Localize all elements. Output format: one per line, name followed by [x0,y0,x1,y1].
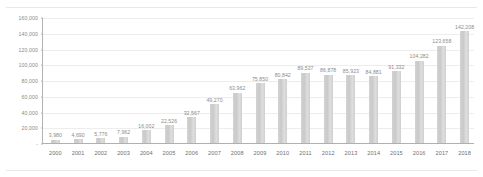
x-axis-labels: 2000200120022003200420052006200720082009… [42,150,474,162]
bar-value-label: 63,962 [229,85,245,91]
x-axis-tick-label: 2010 [276,150,289,156]
bar-rect[interactable] [256,83,265,143]
bar-rect[interactable] [460,31,469,143]
bar-value-label: 123,658 [432,38,451,44]
x-axis-tick-label: 2000 [49,150,62,156]
bar-value-label: 84,881 [366,69,382,75]
y-axis-tick-label: 100,000 [19,62,38,68]
bar-value-label: 75,850 [252,76,268,82]
bar-value-label: 85,923 [343,68,359,74]
x-axis-tick-label: 2012 [322,150,335,156]
x-axis-tick-label: 2009 [254,150,267,156]
bar-rect[interactable] [346,75,355,143]
y-axis-tick-label: - [36,141,38,147]
y-axis-labels: -20,00040,00060,00080,000100,000120,0001… [0,18,38,144]
bar-item[interactable]: 142,208 [451,24,479,143]
bar-rect[interactable] [51,140,60,143]
bar-value-label: 80,842 [275,72,291,78]
bar-rect[interactable] [278,79,287,143]
x-axis-tick-label: 2014 [367,150,380,156]
bar-series: 3,9804,6905,7767,96216,00222,52632,56749… [42,18,474,144]
bar-value-label: 16,002 [138,123,154,129]
x-axis-tick-label: 2003 [117,150,130,156]
x-axis-tick-label: 2015 [390,150,403,156]
x-axis-tick-label: 2013 [345,150,358,156]
bar-value-label: 89,537 [297,65,313,71]
bar-value-label: 5,776 [94,131,107,137]
y-axis-tick-label: 160,000 [19,15,38,21]
x-axis-tick-label: 2018 [458,150,471,156]
bar-rect[interactable] [392,71,401,143]
bar-rect[interactable] [74,139,83,143]
y-axis-tick-label: 80,000 [22,78,38,84]
figure-bottom-border [6,170,477,171]
x-axis-tick-label: 2006 [185,150,198,156]
bar-rect[interactable] [119,137,128,143]
figure-top-border [6,7,477,8]
x-axis-tick-label: 2005 [163,150,176,156]
bar-rect[interactable] [165,125,174,143]
bar-value-label: 86,878 [320,67,336,73]
y-axis-tick-label: 120,000 [19,47,38,53]
bar-rect[interactable] [210,104,219,143]
bar-value-label: 49,270 [206,97,222,103]
bar-value-label: 7,962 [117,129,130,135]
bar-value-label: 3,980 [49,132,62,138]
x-axis-tick-label: 2007 [208,150,221,156]
x-axis-tick-label: 2017 [435,150,448,156]
y-axis-tick-label: 20,000 [22,125,38,131]
plot-area: 3,9804,6905,7767,96216,00222,52632,56749… [42,18,474,144]
x-axis-tick-label: 2001 [72,150,85,156]
x-axis-tick-label: 2011 [299,150,311,156]
bar-value-label: 32,567 [184,110,200,116]
x-axis-tick-label: 2008 [231,150,244,156]
bar-rect[interactable] [233,93,242,143]
bar-chart-figure: -20,00040,00060,00080,000100,000120,0001… [0,0,483,177]
x-axis-tick-label: 2002 [94,150,107,156]
bar-value-label: 104,282 [410,53,429,59]
bar-rect[interactable] [415,61,424,143]
bar-value-label: 91,332 [388,64,404,70]
bar-value-label: 22,526 [161,118,177,124]
bar-value-label: 4,690 [71,132,84,138]
x-axis-tick-label: 2016 [413,150,426,156]
bar-rect[interactable] [96,138,105,143]
y-axis-tick-label: 40,000 [22,110,38,116]
bar-rect[interactable] [187,117,196,143]
bar-rect[interactable] [142,130,151,143]
bar-rect[interactable] [369,76,378,143]
bar-value-label: 142,208 [455,24,474,30]
bar-rect[interactable] [437,46,446,143]
y-axis-tick-label: 140,000 [19,31,38,37]
bar-rect[interactable] [324,75,333,143]
x-axis-tick-label: 2004 [140,150,153,156]
bar-rect[interactable] [301,73,310,144]
y-axis-tick-label: 60,000 [22,94,38,100]
